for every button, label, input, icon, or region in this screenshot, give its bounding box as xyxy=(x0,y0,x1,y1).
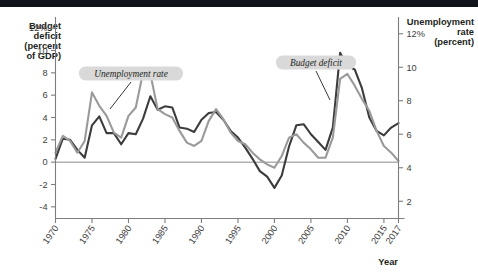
left-tick-label--4: -4 xyxy=(39,202,47,212)
left-tick-label-0: 0 xyxy=(42,157,47,167)
right-tick-label-8: 8 xyxy=(407,96,412,106)
x-tick-label-1980: 1980 xyxy=(114,223,134,245)
budget-deficit-callout-leader-line xyxy=(316,71,330,100)
left-tick-label-2: 2 xyxy=(42,135,47,145)
page-top-bar xyxy=(0,0,478,7)
right-axis-ticks: 24681012% xyxy=(399,29,425,207)
x-tick-label-2010: 2010 xyxy=(333,223,353,245)
right-tick-label-6: 6 xyxy=(407,130,412,140)
x-tick-label-1970: 1970 xyxy=(41,223,61,245)
x-axis-label: Year xyxy=(378,257,398,267)
callout-group: Unemployment rateBudget deficit xyxy=(79,56,356,110)
plot-area-wrapper: Budget deficit (percent of GDP) Unemploy… xyxy=(0,7,478,273)
x-tick-label-1990: 1990 xyxy=(187,223,207,245)
dual-axis-line-chart: Budget deficit (percent of GDP) Unemploy… xyxy=(0,7,478,273)
unemployment-rate-callout-text: Unemployment rate xyxy=(94,69,168,79)
right-axis-title-line-0: Unemployment xyxy=(407,17,474,27)
chart-figure: Budget deficit (percent of GDP) Unemploy… xyxy=(0,0,478,273)
left-tick-label-8: 8 xyxy=(42,68,47,78)
right-axis-title-line-1: rate xyxy=(457,27,474,37)
unemployment-rate-callout-leader-line xyxy=(110,82,131,109)
left-tick-label-10: 10 xyxy=(37,46,47,56)
left-tick-label--2: -2 xyxy=(39,180,47,190)
right-tick-label-2: 2 xyxy=(407,197,412,207)
right-tick-label-10: 10 xyxy=(407,63,417,73)
series-line-unemployment-rate xyxy=(56,72,399,167)
x-tick-label-1995: 1995 xyxy=(223,223,243,245)
x-axis-ticks: 1970197519801985199019952000200520102015… xyxy=(41,218,405,246)
left-tick-label-6: 6 xyxy=(42,90,47,100)
right-tick-label-12%: 12% xyxy=(407,29,425,39)
x-tick-label-2005: 2005 xyxy=(296,223,316,245)
x-tick-label-1985: 1985 xyxy=(150,223,170,245)
x-tick-label-2000: 2000 xyxy=(260,223,280,245)
x-tick-label-1975: 1975 xyxy=(77,223,97,245)
budget-deficit-callout-text: Budget deficit xyxy=(290,58,342,68)
x-tick-label-2017: 2017 xyxy=(384,223,404,245)
left-tick-label-4: 4 xyxy=(42,113,47,123)
right-axis-title-line-2: (percent) xyxy=(434,37,474,47)
left-tick-label-12%: 12% xyxy=(29,23,47,33)
right-tick-label-4: 4 xyxy=(407,163,412,173)
